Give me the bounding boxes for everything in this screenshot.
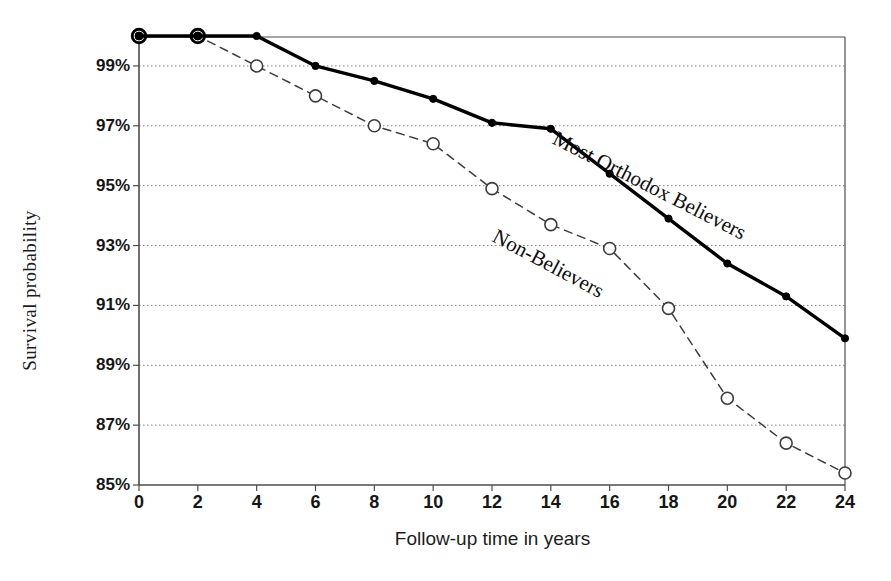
- data-point-orthodox: [665, 215, 672, 222]
- survival-chart-figure: Survival probability 99%97%95%93%91%89%8…: [0, 0, 891, 581]
- x-tick-label: 10: [413, 492, 453, 513]
- x-tick-label: 2: [178, 492, 218, 513]
- data-point-nonbelievers: [427, 138, 439, 150]
- x-tick-label: 24: [825, 492, 865, 513]
- data-point-nonbelievers: [721, 392, 733, 404]
- data-point-nonbelievers: [780, 437, 792, 449]
- x-tick-label: 20: [707, 492, 747, 513]
- data-point-orthodox: [841, 335, 848, 342]
- data-point-orthodox: [371, 77, 378, 84]
- data-point-orthodox: [253, 32, 260, 39]
- data-point-nonbelievers: [251, 60, 263, 72]
- data-point-overlap-dot: [194, 32, 202, 40]
- data-point-orthodox: [783, 293, 790, 300]
- series-line-nonbelievers: [139, 36, 845, 473]
- x-axis-title: Follow-up time in years: [139, 528, 846, 550]
- data-point-nonbelievers: [368, 120, 380, 132]
- x-tick-label: 12: [472, 492, 512, 513]
- x-tick-label: 18: [649, 492, 689, 513]
- x-tick-label: 22: [766, 492, 806, 513]
- x-tick-label: 4: [237, 492, 277, 513]
- data-point-nonbelievers: [839, 467, 851, 479]
- x-tick-label: 14: [531, 492, 571, 513]
- data-point-orthodox: [430, 95, 437, 102]
- data-point-orthodox: [312, 62, 319, 69]
- data-point-overlap-dot: [135, 32, 143, 40]
- x-tick-label: 8: [354, 492, 394, 513]
- data-point-nonbelievers: [604, 243, 616, 255]
- data-point-nonbelievers: [545, 219, 557, 231]
- data-point-orthodox: [724, 260, 731, 267]
- data-point-nonbelievers: [663, 302, 675, 314]
- data-point-orthodox: [547, 125, 554, 132]
- x-tick-label: 6: [296, 492, 336, 513]
- x-tick-label: 0: [119, 492, 159, 513]
- data-point-nonbelievers: [310, 90, 322, 102]
- data-point-nonbelievers: [486, 183, 498, 195]
- x-tick-label: 16: [590, 492, 630, 513]
- data-point-orthodox: [488, 119, 495, 126]
